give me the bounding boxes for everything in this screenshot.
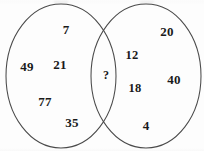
left-set-value: 7 xyxy=(63,23,70,36)
right-set-value: 12 xyxy=(126,49,139,62)
right-set-value: 4 xyxy=(143,119,150,132)
venn-diagram: 7 49 21 77 35 20 12 40 18 4 ? xyxy=(0,0,204,151)
left-set-value: 77 xyxy=(38,95,51,108)
right-set-value: 20 xyxy=(160,25,173,38)
left-set-ellipse xyxy=(6,4,116,148)
left-set-value: 35 xyxy=(65,116,78,129)
left-set-value: 49 xyxy=(20,60,33,73)
intersection-question-mark: ? xyxy=(103,69,109,81)
right-set-value: 40 xyxy=(167,73,180,86)
right-set-value: 18 xyxy=(129,82,142,95)
left-set-value: 21 xyxy=(53,58,66,71)
